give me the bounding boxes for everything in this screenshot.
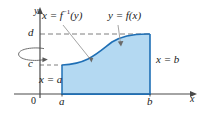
tick-label-a: a [59, 96, 65, 107]
label-left-boundary: x = a [39, 74, 62, 85]
revolution-region-figure: x = f−1(y) y = f(x) x = b x = a d c 0 a … [0, 0, 205, 116]
tick-label-b: b [147, 96, 153, 107]
x-axis-label: x [190, 94, 194, 104]
tick-label-c: c [28, 58, 33, 69]
revolution-arrowhead-icon [42, 57, 47, 62]
label-inverse-function: x = f−1(y) [42, 10, 82, 21]
leader-line-inverse [63, 25, 91, 60]
label-function: y = f(x) [108, 10, 141, 21]
origin-label: 0 [31, 96, 36, 106]
label-right-boundary: x = b [156, 54, 179, 65]
y-axis-label: y [34, 6, 38, 16]
tick-label-d: d [28, 27, 34, 38]
